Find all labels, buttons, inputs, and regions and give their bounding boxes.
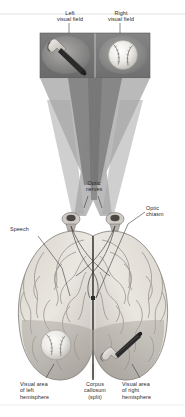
- brain: [18, 231, 167, 380]
- light-cones: [40, 78, 150, 216]
- label-corpus-callosum: Corpus callosum (split): [78, 381, 112, 400]
- label-visual-area-right-hemisphere: Visual area of right hemisphere: [122, 381, 174, 400]
- label-optic-chiasm: Optic chiasm: [146, 205, 182, 218]
- label-right-visual-field: Right visual field: [97, 10, 145, 23]
- label-visual-area-left-hemisphere: Visual area of left hemisphere: [20, 381, 72, 400]
- label-speech: Speech: [10, 226, 46, 232]
- label-optic-nerves: Optic nerves: [72, 180, 116, 193]
- visual-area-right-shading: [93, 320, 164, 380]
- field-label-leaders: [69, 23, 120, 33]
- baseball-icon: [109, 41, 138, 70]
- chiasm-marker: [91, 296, 95, 300]
- right-eye: [106, 213, 124, 232]
- left-eye: [62, 213, 80, 232]
- label-left-visual-field: Left visual field: [46, 10, 94, 23]
- right-field-content: [99, 36, 147, 74]
- leader-optic-chiasm: [128, 212, 145, 224]
- visual-field-panel: [40, 33, 150, 78]
- baseball-in-left-hemisphere: [41, 330, 71, 360]
